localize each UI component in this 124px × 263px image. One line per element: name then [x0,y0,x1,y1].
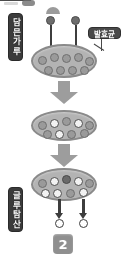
granule [50,53,59,62]
granule [80,129,89,138]
flow-arrow-down-icon [50,144,78,167]
granule [62,117,71,126]
step-number-badge: 2 [53,234,73,254]
granule [79,188,88,197]
label-powder: 담믄가루 [8,13,23,61]
granule [44,66,53,75]
granule [43,130,52,139]
granule [85,179,94,188]
granule [66,189,75,198]
granule [62,54,71,63]
released-product-icon [79,219,88,228]
granule [38,121,47,130]
granule [50,119,59,128]
exit-arrow-icon [58,199,61,214]
cell-stage-1 [31,44,97,78]
top-edge-artifact [4,2,18,5]
cell-stage-2 [31,110,97,141]
released-product-icon [55,219,64,228]
label-glutamic-acid: 글루탐산 [8,187,23,232]
granule [74,119,83,128]
granule [41,189,50,198]
granule [38,56,47,65]
granule [38,179,47,188]
granule [80,66,89,75]
label-fermentation-microbe: 발효균 [88,27,121,39]
granule [55,130,64,139]
leader-line-microbe-diagonal [94,44,105,51]
granule [85,57,94,66]
fermentation-diagram: 담믄가루 발효균 글루탐산 [0,0,124,263]
granule [68,66,77,75]
top-edge-artifact [22,0,35,6]
exit-arrow-icon [82,199,85,214]
granule [53,189,62,198]
cell-stage-3 [31,168,97,201]
free-bacterium-icon [46,16,55,25]
granule [74,177,83,186]
granule [67,130,76,139]
free-bacterium-icon [71,16,80,25]
granule [50,177,59,186]
flow-arrow-down-icon [50,81,78,104]
top-edge-artifact [46,7,60,14]
granule [62,175,71,184]
granule [74,53,83,62]
granule [56,66,65,75]
